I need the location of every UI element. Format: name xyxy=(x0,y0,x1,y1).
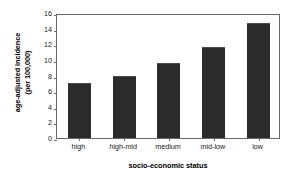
y-axis-tick-label: 4 xyxy=(34,104,52,112)
y-axis-tick-labels: 0246810121416 xyxy=(34,14,52,139)
y-axis-tick-label: 16 xyxy=(34,10,52,18)
bar-slot xyxy=(236,15,281,138)
y-axis-title-line-1: age-adjusted incidence xyxy=(13,33,23,113)
y-axis-tick-label: 14 xyxy=(34,26,52,34)
bar xyxy=(202,47,225,138)
x-axis-tick-label: mid-low xyxy=(200,142,225,152)
y-axis-tick-label: 8 xyxy=(34,73,52,81)
bar-chart-figure: age-adjusted incidence (per 100,000) 024… xyxy=(0,0,288,183)
bar-slot xyxy=(147,15,192,138)
y-axis-tick-mark xyxy=(54,15,57,16)
x-axis-title: socio-economic status xyxy=(56,161,280,170)
bar xyxy=(68,83,91,138)
bar xyxy=(157,63,180,138)
x-axis-tick-mark xyxy=(214,138,215,141)
bar-slot xyxy=(191,15,236,138)
y-axis-tick-label: 2 xyxy=(34,119,52,127)
y-axis-tick-mark xyxy=(54,124,57,125)
y-axis-tick-mark xyxy=(54,78,57,79)
y-axis-tick-mark xyxy=(54,62,57,63)
x-axis-tick-label: high xyxy=(72,142,86,152)
bar-slot xyxy=(102,15,147,138)
x-axis-tick-labels: highhigh-midmediummid-lowlow xyxy=(56,142,280,154)
y-axis-tick-mark xyxy=(54,109,57,110)
y-axis-tick-label: 12 xyxy=(34,41,52,49)
y-axis-tick-label: 6 xyxy=(34,88,52,96)
x-axis-tick-mark xyxy=(124,138,125,141)
x-axis-tick-label: high-mid xyxy=(109,142,137,152)
plot-area xyxy=(56,14,280,139)
y-axis-tick-mark xyxy=(54,140,57,141)
x-axis-tick-mark xyxy=(169,138,170,141)
x-axis-tick-mark xyxy=(259,138,260,141)
x-axis-tick-mark xyxy=(79,138,80,141)
y-axis-tick-label: 10 xyxy=(34,57,52,65)
y-axis-tick-mark xyxy=(54,93,57,94)
bar-slot xyxy=(57,15,102,138)
x-axis-tick-label: low xyxy=(252,142,263,152)
y-axis-tick-label: 0 xyxy=(34,135,52,143)
y-axis-tick-mark xyxy=(54,46,57,47)
bars-layer xyxy=(57,15,279,138)
bar xyxy=(113,76,136,139)
y-axis-tick-mark xyxy=(54,31,57,32)
y-axis-title-line-2: (per 100,000) xyxy=(23,51,33,95)
bar xyxy=(247,23,270,138)
x-axis-tick-label: medium xyxy=(155,142,181,152)
